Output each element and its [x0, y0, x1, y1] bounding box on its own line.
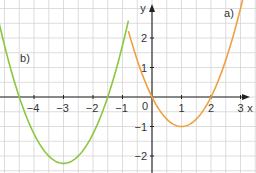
- x-tick-label: −1: [115, 102, 128, 114]
- curves: [0, 0, 246, 163]
- x-tick-label: −3: [56, 102, 69, 114]
- x-tick-label: 3: [237, 102, 243, 114]
- function-plot: −4−3−2−1123−2−1120xya)b): [0, 0, 256, 173]
- curve-a-label: a): [224, 7, 234, 19]
- x-tick-label: 2: [208, 102, 214, 114]
- x-tick-label: −4: [27, 102, 40, 114]
- origin-label: 0: [142, 100, 148, 112]
- y-axis-arrow-icon: [149, 4, 155, 12]
- y-tick-label: −1: [134, 121, 147, 133]
- y-tick-label: −2: [134, 150, 147, 162]
- y-axis-label: y: [140, 2, 146, 14]
- x-axis-arrow-icon: [242, 94, 250, 100]
- grid: [0, 0, 256, 173]
- x-tick-label: −2: [86, 102, 99, 114]
- y-tick-label: 1: [141, 62, 147, 74]
- x-tick-label: 1: [178, 102, 184, 114]
- curve-b-label: b): [20, 52, 30, 64]
- y-tick-label: 2: [141, 32, 147, 44]
- x-axis-label: x: [247, 102, 253, 114]
- axes: [0, 4, 250, 173]
